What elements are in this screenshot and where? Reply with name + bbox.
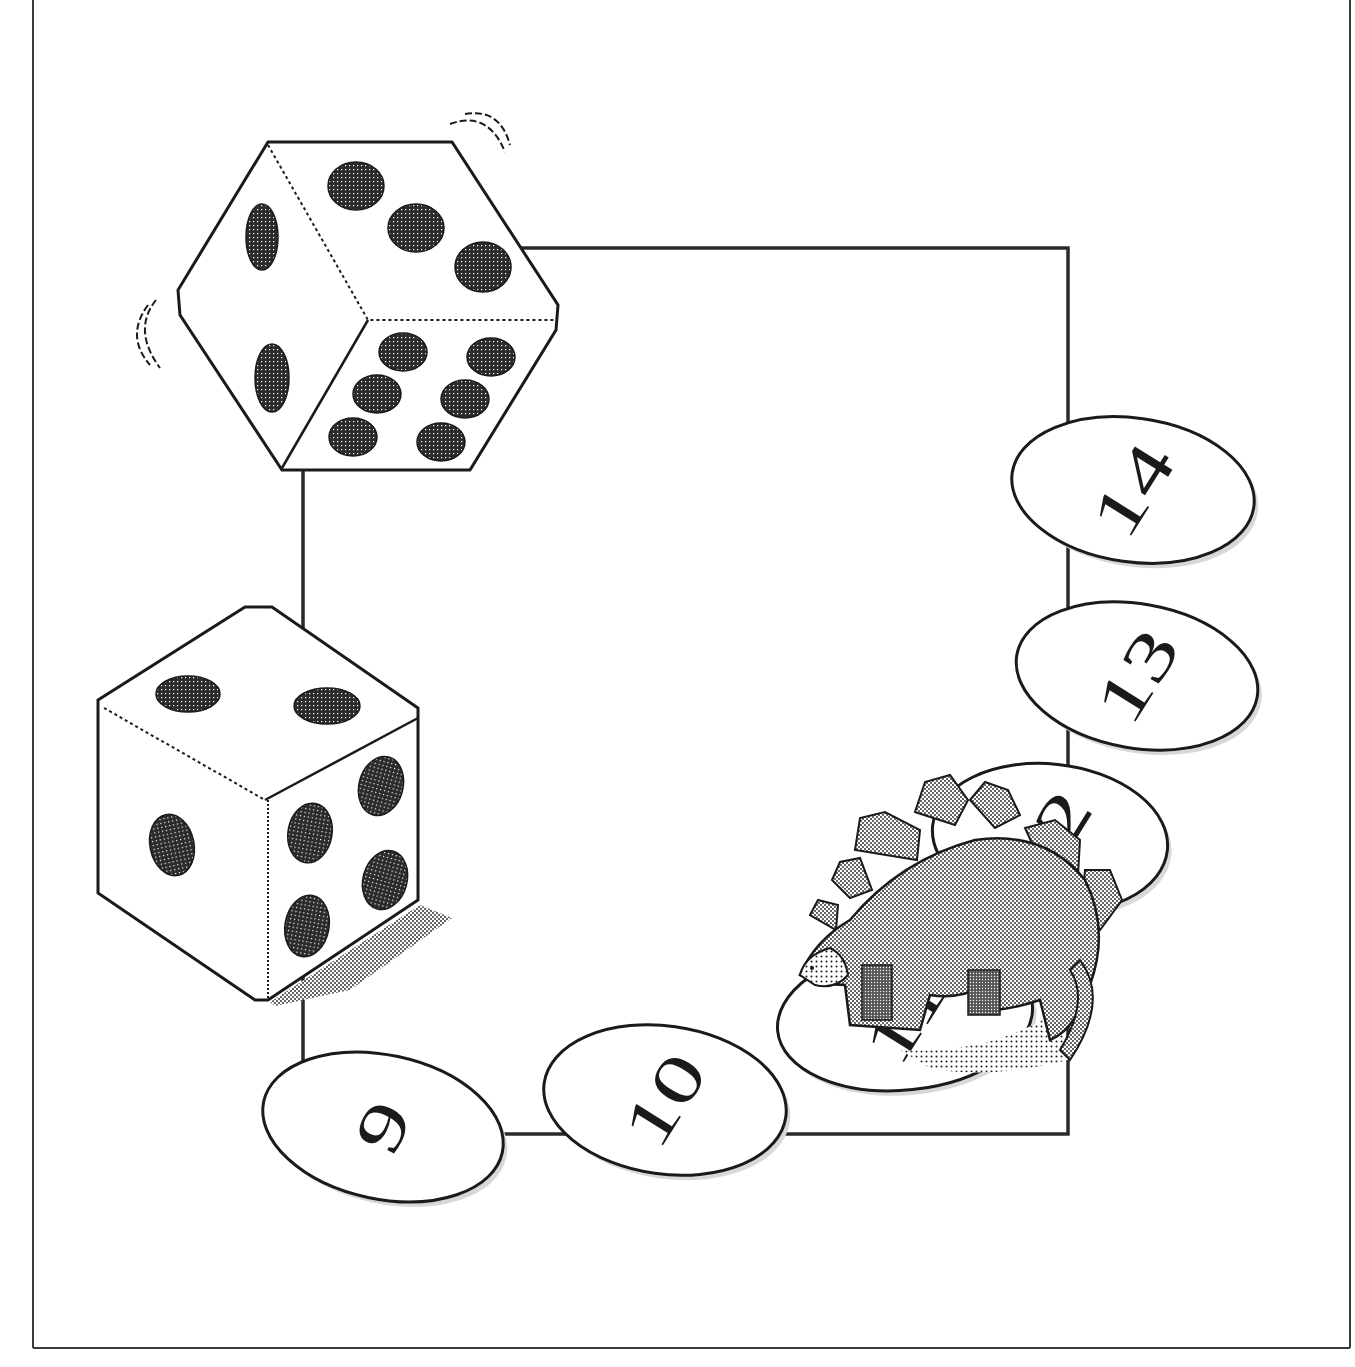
top-die[interactable] (137, 113, 558, 470)
bottom-die[interactable] (98, 607, 452, 1006)
token-13[interactable]: 13 (1004, 584, 1273, 773)
token-9[interactable]: 9 (249, 1031, 522, 1228)
illustration-canvas: Dice board game path (0, 0, 1355, 1367)
token-14[interactable]: 14 (1002, 402, 1268, 584)
token-10[interactable]: 10 (534, 1010, 800, 1196)
